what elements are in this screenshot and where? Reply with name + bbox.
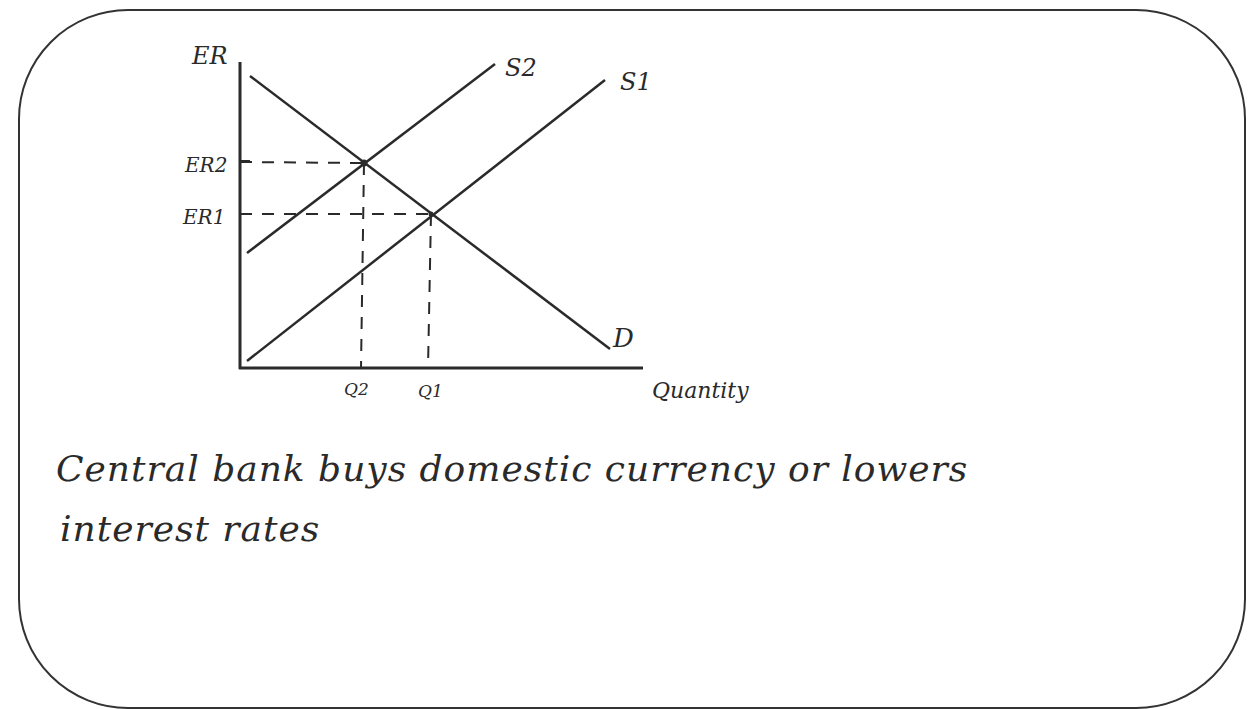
supply-curve-s2	[247, 64, 495, 253]
x-axis-label: Quantity	[652, 378, 749, 403]
er1-label: ER1	[182, 205, 225, 229]
supply-curve-s1	[247, 80, 605, 361]
answer-text-line-2: interest rates	[60, 508, 320, 549]
s2-label: S2	[505, 54, 537, 82]
q2-guide-line	[361, 163, 364, 368]
s1-label: S1	[620, 68, 652, 96]
er2-guide-line	[240, 162, 364, 163]
answer-text-line-1: Central bank buys domestic currency or l…	[56, 448, 968, 489]
d-label: D	[612, 323, 634, 353]
q1-guide-line	[428, 214, 431, 368]
q2-label: Q2	[344, 379, 369, 399]
equilibrium-point-e1	[429, 212, 434, 217]
q1-label: Q1	[418, 381, 443, 401]
er2-label: ER2	[184, 153, 227, 177]
y-axis-label: ER	[191, 42, 228, 70]
equilibrium-point-e2	[361, 160, 368, 167]
